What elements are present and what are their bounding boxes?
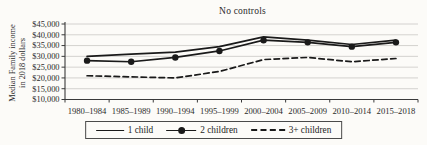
data-point-marker [393, 39, 399, 45]
income-by-children-chart: No controls Median Family income in 2018… [0, 0, 427, 145]
y-tick-label: $40,000 [32, 31, 59, 40]
x-tick-label: 2015–2018 [377, 106, 416, 116]
y-tick-label: $25,000 [32, 63, 59, 72]
x-tick-label: 2000–2004 [244, 106, 283, 116]
x-tick-label: 1980–1984 [68, 106, 107, 116]
x-tick-label: 1995–1999 [200, 106, 239, 116]
x-tick-label: 2010–2014 [332, 106, 371, 116]
legend-label-1-child: 1 child [128, 125, 154, 135]
data-point-marker [84, 57, 90, 63]
y-tick-label: $35,000 [32, 41, 59, 50]
y-tick-label: $15,000 [32, 85, 59, 94]
line-with-dot-icon-dot [178, 127, 185, 134]
dashed-line-icon [251, 129, 285, 131]
y-tick-label: $20,000 [32, 74, 59, 83]
legend-label-2-children: 2 children [200, 125, 237, 135]
x-tick-label: 2005–2009 [288, 106, 327, 116]
data-point-marker [260, 37, 266, 43]
y-tick-label: $45,000 [32, 20, 59, 29]
legend-item-3plus-children: 3+ children [251, 125, 332, 135]
legend-label-3plus-children: 3+ children [289, 125, 332, 135]
data-point-marker [216, 48, 222, 54]
x-tick-label: 1990–1994 [156, 106, 195, 116]
y-tick-label: $10,000 [32, 95, 59, 104]
x-tick-label: 1985–1989 [112, 106, 151, 116]
solid-line-icon [96, 130, 124, 131]
data-point-marker [172, 54, 178, 60]
chart-legend: 1 child 2 children 3+ children [85, 121, 343, 139]
series-line-2-children [87, 40, 396, 62]
data-point-marker [304, 39, 310, 45]
data-point-marker [349, 43, 355, 49]
legend-item-1-child: 1 child [96, 125, 154, 135]
legend-item-2-children: 2 children [166, 125, 237, 135]
data-point-marker [128, 59, 134, 65]
y-tick-label: $30,000 [32, 52, 59, 61]
line-with-dot-icon [166, 127, 196, 134]
